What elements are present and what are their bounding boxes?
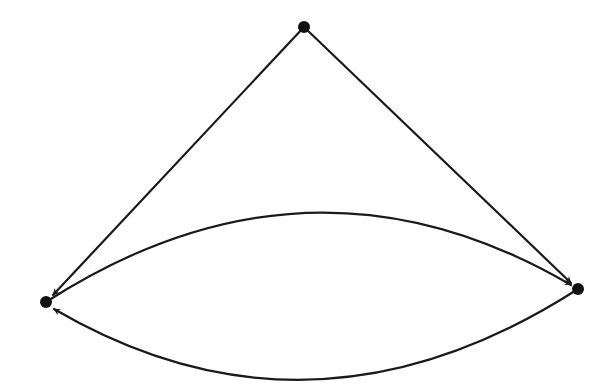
node-right [572, 283, 584, 295]
node-top [298, 21, 310, 33]
edge-top-to-right [304, 27, 571, 283]
directed-graph-diagram [0, 0, 610, 390]
edge-right-to-left-arc [54, 289, 578, 380]
node-left [40, 296, 52, 308]
edge-left-to-right-arc [46, 213, 571, 302]
edge-top-to-left [53, 27, 304, 295]
